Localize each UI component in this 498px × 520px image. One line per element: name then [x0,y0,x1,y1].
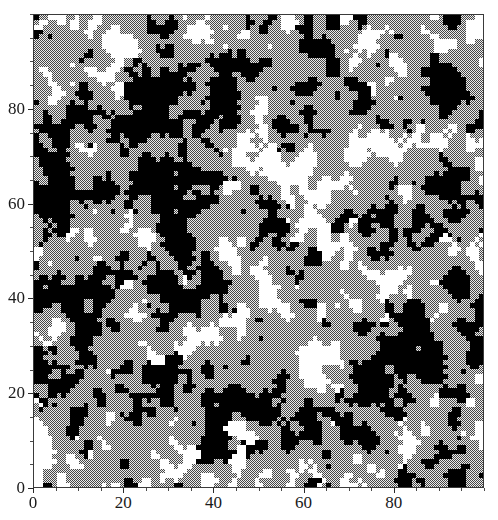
x-minor-tick [146,488,147,491]
y-tick-mark [28,204,33,205]
x-tick-label: 80 [374,494,414,511]
x-minor-tick [168,488,169,491]
y-minor-tick [30,227,33,228]
x-minor-tick [326,488,327,491]
x-minor-tick [78,488,79,491]
x-minor-tick [461,488,462,491]
x-tick-label: 0 [13,494,53,511]
y-minor-tick [30,464,33,465]
x-minor-tick [416,488,417,491]
x-minor-tick [101,488,102,491]
y-tick-label: 40 [0,289,25,306]
y-minor-tick [30,346,33,347]
x-minor-tick [349,488,350,491]
x-minor-tick [259,488,260,491]
x-minor-tick [439,488,440,491]
y-minor-tick [30,370,33,371]
y-tick-mark [28,298,33,299]
y-minor-tick [30,133,33,134]
y-tick-label: 60 [0,195,25,212]
x-tick-label: 60 [284,494,324,511]
lattice-plot-area[interactable] [33,14,484,488]
x-minor-tick [484,488,485,491]
x-tick-label: 20 [103,494,143,511]
y-minor-tick [30,156,33,157]
y-tick-mark [28,393,33,394]
x-minor-tick [56,488,57,491]
lattice-heatmap [34,15,483,487]
y-minor-tick [30,417,33,418]
x-minor-tick [281,488,282,491]
x-tick-label: 40 [193,494,233,511]
y-minor-tick [30,275,33,276]
y-minor-tick [30,14,33,15]
y-minor-tick [30,180,33,181]
y-tick-mark [28,109,33,110]
y-minor-tick [30,251,33,252]
y-minor-tick [30,85,33,86]
y-tick-label: 20 [0,384,25,401]
x-minor-tick [371,488,372,491]
figure-canvas: 020406080 020406080 [0,0,498,520]
x-minor-tick [236,488,237,491]
y-minor-tick [30,441,33,442]
y-minor-tick [30,322,33,323]
y-tick-label: 80 [0,100,25,117]
x-minor-tick [191,488,192,491]
y-minor-tick [30,61,33,62]
y-minor-tick [30,38,33,39]
